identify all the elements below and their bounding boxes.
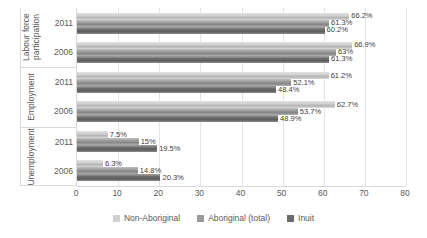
bar-value-label: 66.9% xyxy=(354,41,375,49)
bar-non-aboriginal xyxy=(77,13,349,20)
legend-item-non-aboriginal: Non-Aboriginal xyxy=(113,214,180,223)
bar-value-label: 61.3% xyxy=(331,55,352,63)
bar-row-inuit: 60.2% xyxy=(77,27,406,34)
bar-non-aboriginal xyxy=(77,160,103,167)
grouped-bar-chart: Labour force participationEmploymentUnem… xyxy=(0,0,427,238)
row-unemployment-2011: 20117.5%15%19.5% xyxy=(77,131,406,152)
x-axis: 01020304050607080 xyxy=(76,189,405,201)
legend: Non-AboriginalAboriginal (total)Inuit xyxy=(0,214,427,223)
bar-row-aboriginal-total: 63% xyxy=(77,49,406,56)
x-tick-30: 30 xyxy=(195,189,204,198)
bar-non-aboriginal xyxy=(77,101,335,108)
category-axis: Labour force participationEmploymentUnem… xyxy=(20,8,76,186)
bar-value-label: 62.7% xyxy=(337,101,358,109)
bar-row-aboriginal-total: 15% xyxy=(77,138,406,145)
bar-row-non-aboriginal: 66.9% xyxy=(77,42,406,49)
bar-value-label: 48.9% xyxy=(280,115,301,123)
group-unemployment: 20117.5%15%19.5%20066.3%14.8%20.3% xyxy=(77,127,406,186)
bar-row-non-aboriginal: 66.2% xyxy=(77,13,406,20)
x-tick-70: 70 xyxy=(359,189,368,198)
bar-inuit xyxy=(77,174,160,181)
category-label: Employment xyxy=(27,67,37,127)
bar-value-label: 60.2% xyxy=(327,26,348,34)
bar-value-label: 48.4% xyxy=(278,86,299,94)
year-label: 2011 xyxy=(35,138,73,147)
bar-row-inuit: 61.3% xyxy=(77,56,406,63)
x-tick-10: 10 xyxy=(112,189,121,198)
bar-row-inuit: 48.4% xyxy=(77,86,406,93)
x-tick-60: 60 xyxy=(318,189,327,198)
year-label: 2006 xyxy=(35,107,73,116)
bar-inuit xyxy=(77,145,157,152)
bar-aboriginal-total xyxy=(77,20,329,27)
bar-aboriginal-total xyxy=(77,138,139,145)
plot-area: 201166.2%61.3%60.2%200666.9%63%61.3%2011… xyxy=(76,8,406,187)
bar-row-non-aboriginal: 61.2% xyxy=(77,72,406,79)
row-unemployment-2006: 20066.3%14.8%20.3% xyxy=(77,160,406,181)
bar-row-inuit: 20.3% xyxy=(77,174,406,181)
bar-non-aboriginal xyxy=(77,131,108,138)
bar-aboriginal-total xyxy=(77,108,298,115)
bar-non-aboriginal xyxy=(77,72,329,79)
year-label: 2011 xyxy=(35,78,73,87)
bar-aboriginal-total xyxy=(77,79,291,86)
bar-value-label: 20.3% xyxy=(162,174,183,182)
year-label: 2006 xyxy=(35,48,73,57)
legend-marker-aboriginal-total xyxy=(197,215,204,222)
x-tick-40: 40 xyxy=(236,189,245,198)
bar-row-inuit: 19.5% xyxy=(77,145,406,152)
row-labour-force-participation-2006: 200666.9%63%61.3% xyxy=(77,42,406,63)
legend-label: Aboriginal (total) xyxy=(208,214,270,223)
bar-inuit xyxy=(77,115,278,122)
bar-aboriginal-total xyxy=(77,49,336,56)
bar-row-aboriginal-total: 52.1% xyxy=(77,79,406,86)
legend-item-inuit: Inuit xyxy=(287,214,314,223)
legend-marker-inuit xyxy=(287,215,294,222)
bar-row-aboriginal-total: 53.7% xyxy=(77,108,406,115)
bar-non-aboriginal xyxy=(77,42,352,49)
bar-value-label: 19.5% xyxy=(159,145,180,153)
bar-row-aboriginal-total: 61.3% xyxy=(77,20,406,27)
gridline-80 xyxy=(406,8,407,186)
year-label: 2011 xyxy=(35,19,73,28)
year-label: 2006 xyxy=(35,167,73,176)
bar-value-label: 61.2% xyxy=(331,72,352,80)
group-employment: 201161.2%52.1%48.4%200662.7%53.7%48.9% xyxy=(77,67,406,126)
row-employment-2011: 201161.2%52.1%48.4% xyxy=(77,72,406,93)
x-tick-20: 20 xyxy=(154,189,163,198)
category-label: Labour force participation xyxy=(22,7,42,67)
bar-aboriginal-total xyxy=(77,167,138,174)
bar-row-non-aboriginal: 7.5% xyxy=(77,131,406,138)
category-label: Unemployment xyxy=(27,127,37,187)
bar-row-non-aboriginal: 62.7% xyxy=(77,101,406,108)
bar-row-aboriginal-total: 14.8% xyxy=(77,167,406,174)
group-labour-force-participation: 201166.2%61.3%60.2%200666.9%63%61.3% xyxy=(77,8,406,67)
legend-marker-non-aboriginal xyxy=(113,215,120,222)
bar-row-inuit: 48.9% xyxy=(77,115,406,122)
bar-value-label: 53.7% xyxy=(300,108,321,116)
bar-value-label: 66.2% xyxy=(351,12,372,20)
row-labour-force-participation-2011: 201166.2%61.3%60.2% xyxy=(77,13,406,34)
bar-inuit xyxy=(77,27,325,34)
x-tick-50: 50 xyxy=(277,189,286,198)
bar-inuit xyxy=(77,86,276,93)
row-employment-2006: 200662.7%53.7%48.9% xyxy=(77,101,406,122)
bar-row-non-aboriginal: 6.3% xyxy=(77,160,406,167)
legend-item-aboriginal-total: Aboriginal (total) xyxy=(197,214,270,223)
bar-inuit xyxy=(77,56,329,63)
legend-label: Inuit xyxy=(298,214,314,223)
legend-label: Non-Aboriginal xyxy=(124,214,180,223)
x-tick-0: 0 xyxy=(74,189,79,198)
x-tick-80: 80 xyxy=(400,189,409,198)
